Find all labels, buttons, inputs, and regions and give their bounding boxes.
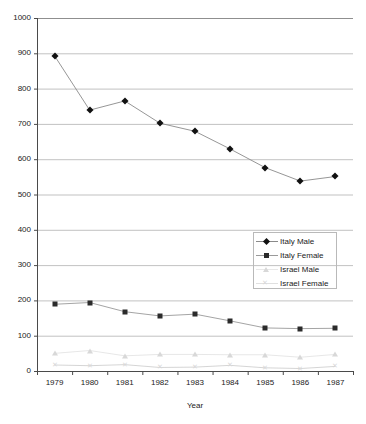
legend-key-x-icon: ✕ — [254, 277, 280, 290]
data-point-israel-male — [52, 351, 58, 356]
legend-key-square-icon — [254, 249, 280, 262]
data-point-israel-female: ✕ — [332, 363, 338, 369]
data-point-italy-female — [263, 325, 268, 330]
data-point-israel-female: ✕ — [157, 364, 163, 370]
x-axis-tick-label: 1986 — [280, 379, 320, 387]
x-axis-title: Year — [165, 401, 225, 410]
y-axis-tick-label: 400 — [3, 226, 31, 234]
data-point-israel-female: ✕ — [52, 362, 58, 368]
legend-label-italy-female: Italy Female — [280, 251, 324, 260]
data-point-israel-female: ✕ — [192, 364, 198, 370]
data-point-israel-female: ✕ — [122, 362, 128, 368]
data-point-italy-female — [228, 318, 233, 323]
data-point-israel-male — [122, 353, 128, 358]
y-axis-tick-label: 700 — [3, 120, 31, 128]
x-axis-tick-label: 1984 — [210, 379, 250, 387]
x-axis-tick-label: 1981 — [105, 379, 145, 387]
legend-item-italy-female: Italy Female — [254, 248, 338, 262]
data-point-israel-male — [192, 352, 198, 357]
legend-item-israel-male: Israel Male — [254, 262, 338, 276]
y-axis-tick-label: 900 — [3, 49, 31, 57]
x-axis-tick-label: 1979 — [35, 379, 75, 387]
legend-label-israel-female: Israel Female — [280, 279, 328, 288]
data-point-israel-male — [157, 352, 163, 357]
legend-label-italy-male: Italy Male — [280, 237, 314, 246]
data-point-italy-female — [157, 313, 162, 318]
data-point-italy-female — [122, 309, 127, 314]
data-point-italy-female — [333, 326, 338, 331]
x-axis-tick-label: 1987 — [315, 379, 355, 387]
data-point-israel-male — [262, 352, 268, 357]
data-point-israel-female: ✕ — [297, 366, 303, 372]
x-axis-tick-label: 1985 — [245, 379, 285, 387]
legend-label-israel-male: Israel Male — [280, 265, 319, 274]
line-chart: 0100200300400500600700800900100019791980… — [0, 0, 366, 424]
data-point-israel-female: ✕ — [87, 363, 93, 369]
y-axis-tick-label: 1000 — [3, 14, 31, 22]
data-point-israel-male — [297, 355, 303, 360]
y-axis-tick-label: 200 — [3, 296, 31, 304]
data-point-israel-female: ✕ — [227, 362, 233, 368]
legend-item-israel-female: ✕ Israel Female — [254, 276, 338, 290]
legend-item-italy-male: Italy Male — [254, 234, 338, 248]
y-axis-tick-label: 100 — [3, 332, 31, 340]
y-axis-tick-label: 800 — [3, 85, 31, 93]
data-point-italy-female — [52, 302, 57, 307]
data-point-israel-male — [87, 348, 93, 353]
data-point-italy-female — [87, 300, 92, 305]
chart-legend: Italy Male Italy Female Israel Male ✕ Is… — [253, 232, 337, 289]
data-point-italy-female — [298, 326, 303, 331]
data-point-israel-male — [227, 352, 233, 357]
data-point-israel-female: ✕ — [262, 365, 268, 371]
x-axis-tick-label: 1983 — [175, 379, 215, 387]
data-point-italy-female — [193, 312, 198, 317]
legend-key-triangle-icon — [254, 263, 280, 276]
y-axis-tick-label: 600 — [3, 155, 31, 163]
y-axis-tick-label: 500 — [3, 191, 31, 199]
y-axis-tick-label: 300 — [3, 261, 31, 269]
x-axis-tick-label: 1980 — [70, 379, 110, 387]
data-point-israel-male — [332, 352, 338, 357]
x-axis-tick-label: 1982 — [140, 379, 180, 387]
y-axis-tick-label: 0 — [3, 367, 31, 375]
legend-key-diamond-icon — [254, 235, 280, 248]
